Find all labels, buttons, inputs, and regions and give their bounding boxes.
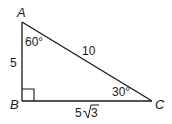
triangle-diagram: A B C 5 10 60° 30° 5 3 [0, 0, 172, 124]
angle-label-a: 60° [25, 35, 43, 49]
vertex-label-a: A [16, 5, 26, 20]
vertex-label-b: B [10, 97, 19, 112]
vertex-label-c: C [155, 97, 165, 112]
side-label-bc-coef: 5 [75, 106, 82, 120]
side-label-bc-radicand: 3 [91, 106, 98, 120]
side-label-ab: 5 [10, 56, 17, 70]
side-label-bc: 5 3 [75, 105, 99, 120]
side-ac [22, 22, 152, 101]
angle-label-c: 30° [112, 85, 130, 99]
right-angle-marker [22, 89, 34, 101]
side-label-ac: 10 [82, 44, 96, 58]
